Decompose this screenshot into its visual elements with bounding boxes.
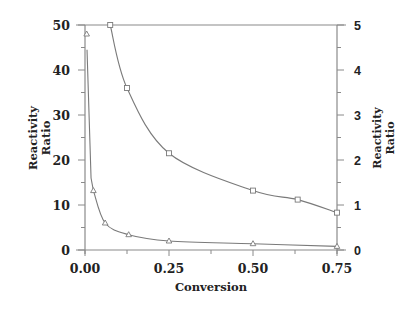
chart: 0.000.250.500.7501020304050012345 Reacti…: [0, 0, 410, 310]
y-left-tick-label: 20: [53, 153, 71, 168]
square-marker: [108, 23, 113, 28]
square-marker: [335, 210, 340, 215]
y-right-tick-label: 0: [354, 244, 361, 258]
y-left-tick-label: 10: [53, 198, 71, 213]
x-tick-label: 0.50: [238, 261, 269, 276]
y-right-tick-label: 1: [354, 199, 361, 213]
y-left-tick-label: 50: [53, 18, 71, 33]
y-right-tick-label: 2: [354, 154, 361, 168]
tick-labels: 0.000.250.500.7501020304050012345: [53, 18, 361, 277]
y-axis-title-left-line1: Reactivity: [26, 106, 40, 170]
y-axis-title-right-line1: Reactivity: [371, 107, 384, 169]
x-tick-label: 0.25: [154, 261, 184, 276]
x-axis-title: Conversion: [175, 280, 248, 294]
y-left-tick-label: 30: [53, 108, 71, 123]
square-marker: [167, 151, 172, 156]
y-left-tick-label: 0: [61, 243, 70, 258]
y-right-tick-label: 3: [354, 109, 361, 123]
y-right-tick-label: 5: [354, 19, 361, 33]
data-series: [84, 23, 340, 249]
square-marker: [251, 188, 256, 193]
x-tick-label: 0.00: [70, 261, 101, 276]
x-tick-label: 0.75: [322, 261, 352, 276]
square-series-line: [110, 25, 337, 213]
square-marker: [125, 86, 130, 91]
y-left-tick-label: 40: [53, 63, 71, 78]
triangle-marker: [91, 188, 97, 193]
square-marker: [295, 197, 300, 202]
y-axis-title-right-line2: Ratio: [384, 121, 397, 154]
triangle-series-line: [87, 50, 337, 247]
y-axis-title-left-line2: Ratio: [39, 120, 53, 155]
y-right-tick-label: 4: [354, 64, 361, 78]
